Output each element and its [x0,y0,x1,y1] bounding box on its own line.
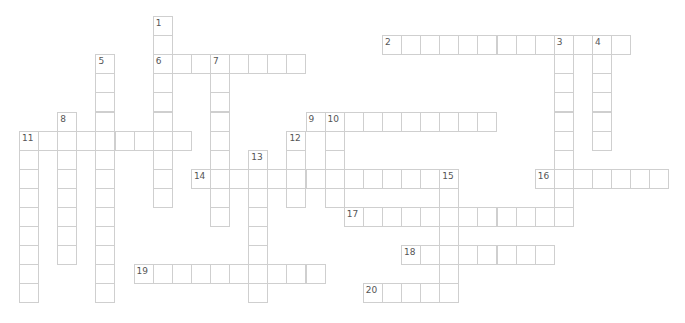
crossword-cell[interactable] [497,207,517,227]
crossword-cell[interactable] [420,207,440,227]
crossword-cell[interactable] [363,112,383,132]
crossword-cell[interactable] [497,35,517,55]
crossword-cell[interactable] [95,226,115,246]
crossword-cell[interactable] [325,131,345,151]
crossword-cell[interactable] [191,264,211,284]
crossword-cell[interactable]: 12 [286,131,306,151]
crossword-cell[interactable] [420,169,440,189]
crossword-cell[interactable] [401,283,421,303]
crossword-cell[interactable] [19,226,39,246]
crossword-cell[interactable] [420,283,440,303]
crossword-cell[interactable] [95,188,115,208]
crossword-cell[interactable] [573,35,593,55]
crossword-cell[interactable] [172,131,192,151]
crossword-cell[interactable] [115,131,135,151]
crossword-cell[interactable] [267,169,287,189]
crossword-cell[interactable] [95,207,115,227]
crossword-cell[interactable] [19,207,39,227]
crossword-cell[interactable] [592,131,612,151]
crossword-cell[interactable] [153,92,173,112]
crossword-cell[interactable] [57,131,77,151]
crossword-cell[interactable] [153,131,173,151]
crossword-cell[interactable] [554,188,574,208]
crossword-cell[interactable] [153,169,173,189]
crossword-cell[interactable]: 6 [153,54,173,74]
crossword-cell[interactable]: 7 [210,54,230,74]
crossword-cell[interactable] [401,169,421,189]
crossword-cell[interactable] [210,207,230,227]
crossword-cell[interactable] [344,112,364,132]
crossword-cell[interactable] [611,35,631,55]
crossword-cell[interactable] [497,245,517,265]
crossword-cell[interactable] [344,169,364,189]
crossword-cell[interactable] [439,283,459,303]
crossword-cell[interactable] [382,207,402,227]
crossword-cell[interactable] [420,112,440,132]
crossword-cell[interactable] [172,54,192,74]
crossword-cell[interactable]: 16 [535,169,555,189]
crossword-cell[interactable] [229,54,249,74]
crossword-cell[interactable] [325,188,345,208]
crossword-cell[interactable] [229,169,249,189]
crossword-cell[interactable] [19,169,39,189]
crossword-cell[interactable] [95,150,115,170]
crossword-cell[interactable] [267,264,287,284]
crossword-cell[interactable] [439,226,459,246]
crossword-cell[interactable] [439,207,459,227]
crossword-cell[interactable] [306,169,326,189]
crossword-cell[interactable] [248,283,268,303]
crossword-cell[interactable]: 18 [401,245,421,265]
crossword-cell[interactable] [95,169,115,189]
crossword-cell[interactable]: 9 [306,112,326,132]
crossword-cell[interactable] [382,169,402,189]
crossword-cell[interactable] [76,131,96,151]
crossword-cell[interactable] [401,112,421,132]
crossword-cell[interactable] [439,112,459,132]
crossword-cell[interactable]: 14 [191,169,211,189]
crossword-cell[interactable] [649,169,669,189]
crossword-cell[interactable] [554,112,574,132]
crossword-cell[interactable] [630,169,650,189]
crossword-cell[interactable] [210,188,230,208]
crossword-cell[interactable]: 11 [19,131,39,151]
crossword-cell[interactable] [458,207,478,227]
crossword-cell[interactable] [535,245,555,265]
crossword-cell[interactable] [516,207,536,227]
crossword-cell[interactable] [19,264,39,284]
crossword-cell[interactable]: 2 [382,35,402,55]
crossword-cell[interactable] [363,207,383,227]
crossword-cell[interactable]: 3 [554,35,574,55]
crossword-cell[interactable] [248,188,268,208]
crossword-cell[interactable] [57,245,77,265]
crossword-cell[interactable] [248,169,268,189]
crossword-cell[interactable] [210,131,230,151]
crossword-cell[interactable] [554,131,574,151]
crossword-cell[interactable] [57,188,77,208]
crossword-cell[interactable] [611,169,631,189]
crossword-cell[interactable] [286,169,306,189]
crossword-cell[interactable] [248,54,268,74]
crossword-cell[interactable] [153,73,173,93]
crossword-cell[interactable] [382,112,402,132]
crossword-cell[interactable] [439,245,459,265]
crossword-cell[interactable] [210,169,230,189]
crossword-cell[interactable] [210,112,230,132]
crossword-cell[interactable] [286,54,306,74]
crossword-cell[interactable] [516,245,536,265]
crossword-cell[interactable] [554,54,574,74]
crossword-cell[interactable] [153,264,173,284]
crossword-cell[interactable] [477,112,497,132]
crossword-cell[interactable] [229,264,249,284]
crossword-cell[interactable] [248,245,268,265]
crossword-cell[interactable] [306,264,326,284]
crossword-cell[interactable] [535,207,555,227]
crossword-cell[interactable] [95,92,115,112]
crossword-cell[interactable] [592,112,612,132]
crossword-cell[interactable] [57,169,77,189]
crossword-cell[interactable] [57,207,77,227]
crossword-cell[interactable] [554,150,574,170]
crossword-cell[interactable] [38,131,58,151]
crossword-cell[interactable] [325,169,345,189]
crossword-cell[interactable] [95,112,115,132]
crossword-cell[interactable] [477,245,497,265]
